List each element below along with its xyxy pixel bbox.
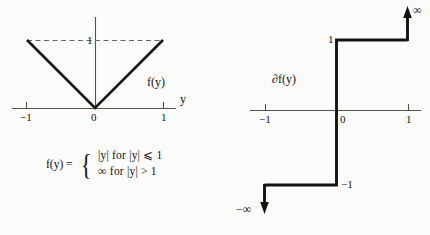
- formula-cases: |y| for |y| ⩽ 1 ∞ for |y| > 1: [98, 148, 162, 179]
- formula-case-two: ∞ for |y| > 1: [98, 164, 162, 179]
- left-curve-label: f(y): [147, 76, 165, 88]
- right-xtick-label-minus-one: −1: [259, 114, 271, 125]
- left-brace-icon: {: [80, 153, 91, 175]
- right-ytick-label-minus-one: −1: [341, 179, 353, 190]
- left-xtick-label-zero: 0: [91, 112, 97, 123]
- right-xtick-label-zero: 0: [340, 114, 346, 125]
- left-axis-label-y: y: [180, 93, 186, 105]
- math-figure: −1 0 1 1 y f(y) −1 0 1 1 −1 ∂f(y) ∞ −∞ f…: [0, 0, 430, 235]
- figure-canvas: [0, 0, 430, 235]
- infinity-label-negative: −∞: [236, 203, 251, 215]
- arrow-up-icon: [403, 6, 412, 18]
- formula-lhs: f(y) =: [46, 158, 73, 170]
- right-curve-label: ∂f(y): [272, 73, 296, 85]
- left-xtick-label-minus-one: −1: [20, 112, 32, 123]
- formula-case-two-rest: for |y| > 1: [107, 165, 157, 177]
- right-step-curve: [265, 40, 408, 185]
- left-xtick-label-one: 1: [161, 112, 167, 123]
- left-ytick-label-one: 1: [87, 35, 93, 46]
- formula-case-one: |y| for |y| ⩽ 1: [98, 148, 162, 162]
- piecewise-formula: f(y) = { |y| for |y| ⩽ 1 ∞ for |y| > 1: [46, 148, 162, 179]
- arrow-down-icon: [260, 202, 269, 214]
- formula-case-two-symbol: ∞: [98, 164, 107, 178]
- infinity-label-positive: ∞: [413, 4, 422, 16]
- right-ytick-label-one: 1: [328, 34, 334, 45]
- right-xtick-label-one: 1: [406, 114, 412, 125]
